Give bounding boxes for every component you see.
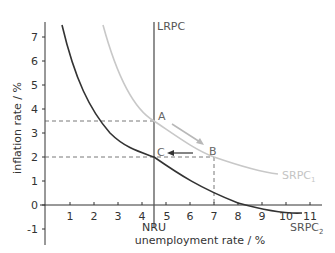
svg-text:0: 0 [31, 199, 38, 212]
srpc2-label: SRPC2 [290, 221, 323, 236]
point-c-label: C [157, 146, 165, 159]
arrow-a-to-b [172, 124, 204, 145]
svg-text:1: 1 [31, 175, 38, 188]
svg-text:3: 3 [31, 127, 38, 140]
srpc2-curve [62, 25, 302, 213]
svg-text:7: 7 [211, 210, 218, 223]
svg-text:4: 4 [31, 103, 38, 116]
srpc1-label: SRPC1 [282, 169, 315, 184]
x-axis-title: unemployment rate / % [135, 234, 265, 247]
svg-text:5: 5 [31, 79, 38, 92]
svg-text:6: 6 [187, 210, 194, 223]
lrpc-label: LRPC [157, 20, 185, 33]
svg-text:8: 8 [235, 210, 242, 223]
point-b-label: B [209, 145, 217, 158]
arrow-b-to-c [167, 150, 193, 156]
srpc1-curve [103, 25, 278, 174]
y-axis-title: inflation rate / % [11, 82, 24, 174]
svg-text:2: 2 [91, 210, 98, 223]
svg-text:2: 2 [31, 151, 38, 164]
phillips-curve-diagram: -1 0 1 2 3 4 5 6 7 1 2 3 4 5 6 7 8 9 10 … [0, 0, 335, 253]
svg-text:-1: -1 [27, 223, 38, 236]
svg-text:7: 7 [31, 31, 38, 44]
svg-text:1: 1 [67, 210, 74, 223]
svg-text:9: 9 [259, 210, 266, 223]
svg-text:6: 6 [31, 55, 38, 68]
nru-label: NRU [142, 221, 166, 234]
y-ticks: -1 0 1 2 3 4 5 6 7 [27, 31, 45, 236]
dashed-guides [45, 121, 214, 205]
svg-text:3: 3 [115, 210, 122, 223]
point-a-label: A [158, 110, 166, 123]
